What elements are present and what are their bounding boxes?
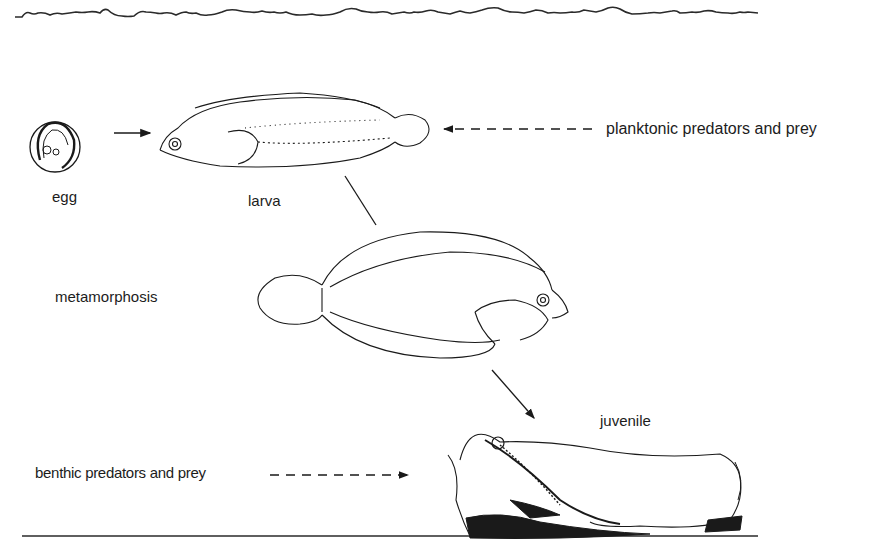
larva-illustration [160,93,429,167]
planktonic-influence-label: planktonic predators and prey [606,120,817,138]
juvenile-illustration [448,434,742,538]
egg-label: egg [52,188,77,205]
arrow-metamorphosis-to-juvenile [492,370,534,418]
egg-illustration [30,122,80,172]
juvenile-label: juvenile [600,412,651,429]
metamorphosis-illustration [258,232,568,358]
metamorphosis-label: metamorphosis [55,288,158,305]
benthic-influence-label: benthic predators and prey [35,464,206,481]
water-surface-line [15,7,758,17]
life-cycle-diagram: egg larva metamorphosis juvenile plankto… [0,0,880,559]
larva-label: larva [248,192,281,209]
connector-larva-to-metamorphosis [345,176,376,225]
